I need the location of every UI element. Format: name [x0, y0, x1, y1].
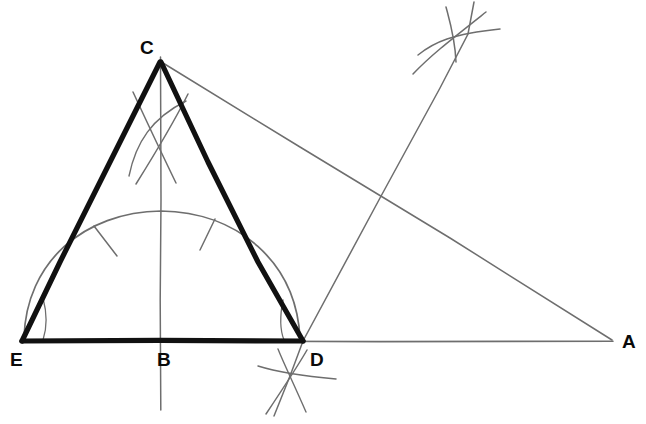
diagram-canvas: C E B D A — [0, 0, 646, 424]
construction-cross-top-right-arc-a — [446, 7, 456, 62]
triangle-side-CE-line — [22, 62, 160, 341]
vertex-label-e: E — [10, 350, 23, 369]
semicircle-tick-right-mark — [200, 219, 215, 250]
angle-arc-at-e — [43, 298, 46, 340]
semicircle-on-ED-arc — [24, 211, 300, 338]
vertex-label-c: C — [140, 38, 154, 57]
vertex-label-d: D — [310, 350, 324, 369]
vertex-label-a: A — [622, 332, 636, 351]
construction-cross-below-d-arc-b — [266, 350, 307, 414]
vertex-label-b: B — [157, 350, 171, 369]
construction-cross-below-d-arc-a — [258, 366, 336, 379]
semicircle-tick-left-mark — [94, 226, 117, 256]
triangle-base-ED-line — [22, 340, 303, 341]
triangle-side-CD-line — [161, 62, 303, 341]
